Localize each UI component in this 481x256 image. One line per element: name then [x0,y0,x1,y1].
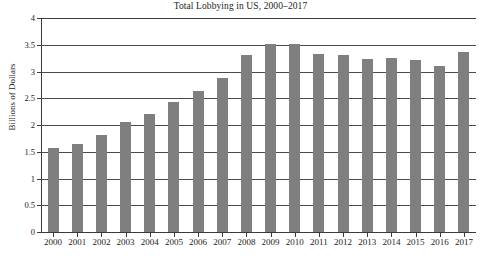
bar-2001 [72,144,83,232]
y-tick-label-0: 0 [31,228,35,237]
bar-2014 [386,58,397,232]
x-tick-label-2006: 2006 [189,238,207,247]
x-tick-label-2011: 2011 [310,238,328,247]
bar-2005 [168,102,179,232]
x-axis-line [41,232,476,233]
y-tickmark-2 [37,125,41,126]
y-tick-label-1: 1 [31,174,35,183]
y-tickmark-0.5 [37,205,41,206]
y-axis-label: Billions of Dollars [7,37,17,157]
y-tickmark-2.5 [37,98,41,99]
y-tickmark-4 [37,18,41,19]
bar-2002 [96,135,107,232]
y-tickmark-1.5 [37,152,41,153]
y-tickmark-0 [37,232,41,233]
bar-2008 [241,55,252,232]
bar-2012 [338,55,349,232]
x-tick-label-2000: 2000 [44,238,62,247]
gridline-4 [41,18,476,19]
bar-2003 [120,122,131,232]
bar-2010 [289,44,300,232]
y-tick-label-1.5: 1.5 [24,148,35,157]
x-tick-label-2015: 2015 [407,238,425,247]
x-tick-label-2009: 2009 [262,238,280,247]
y-tickmark-3 [37,72,41,73]
x-tick-label-2014: 2014 [382,238,400,247]
y-tick-label-3: 3 [31,67,35,76]
y-tick-label-2: 2 [31,121,35,130]
x-tick-label-2008: 2008 [237,238,255,247]
bar-2015 [410,60,421,232]
x-tick-label-2010: 2010 [286,238,304,247]
y-tick-label-2.5: 2.5 [24,94,35,103]
x-tick-label-2003: 2003 [117,238,135,247]
x-tick-label-2002: 2002 [92,238,110,247]
bar-2000 [48,148,59,232]
x-tick-label-2016: 2016 [431,238,449,247]
y-tick-label-0.5: 0.5 [24,201,35,210]
x-tick-label-2004: 2004 [141,238,159,247]
chart-title: Total Lobbying in US, 2000–2017 [0,1,481,11]
y-tick-label-3.5: 3.5 [24,41,35,50]
bar-2011 [313,54,324,232]
lobbying-bar-chart: Total Lobbying in US, 2000–2017 Billions… [0,0,481,256]
x-tick-label-2005: 2005 [165,238,183,247]
bar-2004 [144,114,155,232]
x-tick-label-2017: 2017 [455,238,473,247]
bar-2013 [362,59,373,232]
x-tick-label-2001: 2001 [68,238,86,247]
x-tick-label-2012: 2012 [334,238,352,247]
x-tick-label-2007: 2007 [213,238,231,247]
x-tick-label-2013: 2013 [358,238,376,247]
plot-area: 00.511.522.533.54 [41,18,476,232]
bar-2006 [193,91,204,232]
y-tickmark-3.5 [37,45,41,46]
y-tickmark-1 [37,179,41,180]
y-tick-label-4: 4 [31,14,35,23]
bar-2007 [217,78,228,232]
bar-2017 [458,52,469,232]
bar-2016 [434,66,445,232]
bar-2009 [265,44,276,232]
gridline-3.5 [41,45,476,46]
